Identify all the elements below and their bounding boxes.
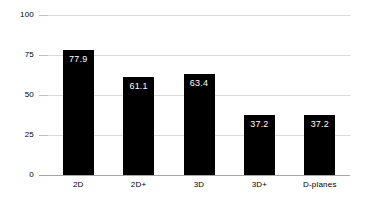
axis-baseline	[48, 175, 350, 176]
bar: 61.1	[123, 77, 154, 175]
bar-value-label: 61.1	[123, 82, 154, 91]
x-axis-labels: 2D2D+3D3D+D-planes	[48, 181, 350, 197]
bars-group: 77.961.163.437.237.2	[48, 15, 350, 175]
bar-value-label: 37.2	[304, 120, 335, 129]
bar-value-label: 77.9	[63, 55, 94, 64]
xtick-label-3d-: 3D+	[229, 181, 289, 189]
xtick-label-3d: 3D	[169, 181, 229, 189]
xtick-label-d-planes: D-planes	[290, 181, 350, 189]
ytick-label-0: 0	[0, 171, 34, 179]
ytick-mark-75	[39, 55, 48, 56]
ytick-label-100: 100	[0, 11, 34, 19]
ytick-mark-0	[39, 175, 48, 176]
bar-slot: 63.4	[184, 15, 215, 175]
bar: 63.4	[184, 74, 215, 175]
ytick-label-50: 50	[0, 91, 34, 99]
ytick-mark-50	[39, 95, 48, 96]
bar-slot: 61.1	[123, 15, 154, 175]
ytick-mark-100	[39, 15, 48, 16]
bar-slot: 37.2	[304, 15, 335, 175]
bar: 37.2	[304, 115, 335, 175]
ytick-label-75: 75	[0, 51, 34, 59]
bar: 77.9	[63, 50, 94, 175]
ytick-mark-25	[39, 135, 48, 136]
bar-slot: 37.2	[244, 15, 275, 175]
bar-value-label: 37.2	[244, 120, 275, 129]
ytick-label-25: 25	[0, 131, 34, 139]
bar-value-label: 63.4	[184, 79, 215, 88]
xtick-label-2d-: 2D+	[108, 181, 168, 189]
bar: 37.2	[244, 115, 275, 175]
bar-chart: 100 75 50 25 0 77.961.163.437.237.2 2D2D…	[0, 0, 367, 205]
xtick-label-2d: 2D	[48, 181, 108, 189]
bar-slot: 77.9	[63, 15, 94, 175]
